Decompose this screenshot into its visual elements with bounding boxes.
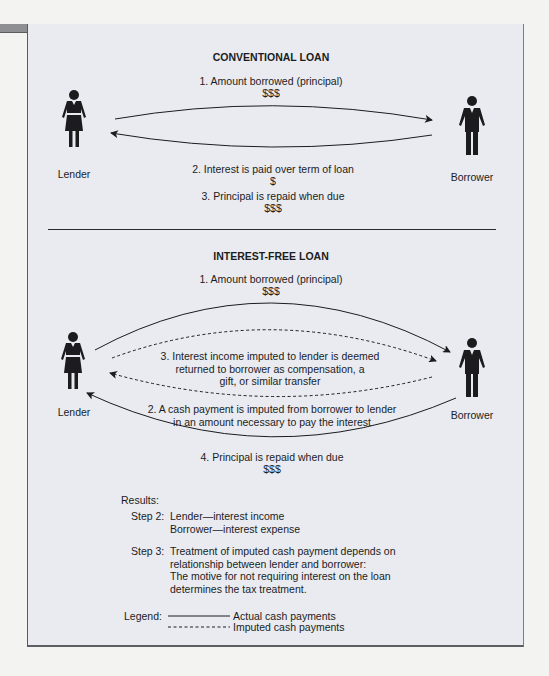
- results-step2-label: Step 2:: [131, 510, 164, 522]
- interest-free-step2: 2. A cash payment is imputed from borrow…: [148, 403, 397, 428]
- interest-free-lender-label: Lender: [58, 406, 91, 418]
- conventional-borrower-label: Borrower: [451, 171, 494, 183]
- conventional-step3: 3. Principal is repaid when due: [201, 190, 344, 202]
- legend-dashed-text: Imputed cash payments: [233, 621, 344, 633]
- legend-label: Legend:: [124, 610, 162, 622]
- interest-free-step1: 1. Amount borrowed (principal): [200, 273, 343, 285]
- conventional-loan-title: CONVENTIONAL LOAN: [213, 51, 329, 63]
- conventional-step2-amount: $: [270, 175, 276, 187]
- results-step3-label: Step 3:: [131, 545, 164, 557]
- conventional-step1: 1. Amount borrowed (principal): [200, 75, 343, 87]
- interest-free-loan-title: INTEREST-FREE LOAN: [213, 250, 329, 262]
- conventional-lender-label: Lender: [58, 168, 91, 180]
- borrower-figure-icon-2: [459, 338, 485, 397]
- conventional-step1-amount: $$$: [262, 87, 280, 99]
- interest-free-step4: 4. Principal is repaid when due: [200, 451, 343, 463]
- interest-free-step3: 3. Interest income imputed to lender is …: [161, 350, 380, 388]
- section-divider: [48, 229, 496, 230]
- conventional-step3-amount: $$$: [264, 202, 282, 214]
- results-step3-text: Treatment of imputed cash payment depend…: [170, 545, 396, 595]
- conventional-step2: 2. Interest is paid over term of loan: [192, 163, 354, 175]
- lender-figure-icon: [62, 90, 86, 147]
- borrower-figure-icon: [459, 96, 485, 155]
- interest-free-step4-amount: $$$: [263, 463, 281, 475]
- lender-figure-icon-2: [61, 332, 85, 389]
- results-step2-text: Lender—interest income Borrower—interest…: [170, 510, 300, 535]
- interest-free-borrower-label: Borrower: [451, 409, 494, 421]
- interest-free-step1-amount: $$$: [262, 285, 280, 297]
- results-heading: Results:: [121, 494, 159, 506]
